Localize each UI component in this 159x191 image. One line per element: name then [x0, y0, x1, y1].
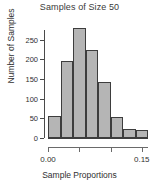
histogram-bar [73, 28, 86, 138]
histogram-bar [61, 61, 74, 138]
x-axis-tick [79, 147, 80, 152]
histogram-bar [86, 50, 99, 138]
histogram-bar [98, 82, 111, 138]
x-axis-tick [48, 147, 49, 152]
y-axis-tick-label: 200 [4, 55, 38, 64]
histogram-chart: Samples of Size 50 Number of Samples 050… [0, 0, 159, 191]
chart-title: Samples of Size 50 [0, 2, 159, 12]
y-axis-tick-label: 100 [4, 95, 38, 104]
y-axis-tick [40, 40, 44, 41]
histogram-bar [123, 129, 136, 138]
plot-area [48, 24, 148, 138]
y-axis-tick-label: 50 [4, 114, 38, 123]
histogram-bar [136, 130, 149, 138]
y-axis-tick-label: 250 [4, 36, 38, 45]
histogram-bar [48, 116, 61, 138]
y-axis-tick [40, 59, 44, 60]
y-axis-tick [40, 99, 44, 100]
x-axis-tick-label: 0.00 [28, 155, 68, 164]
x-axis-bracket [48, 147, 148, 148]
y-axis-line [44, 30, 45, 138]
y-axis-tick-label: 0 [4, 134, 38, 143]
x-axis-line [48, 138, 148, 139]
histogram-bar [111, 117, 124, 138]
x-axis-tick [111, 147, 112, 152]
y-axis-tick-label: 150 [4, 75, 38, 84]
x-axis-title: Sample Proportions [0, 170, 159, 180]
y-axis-tick [40, 79, 44, 80]
y-axis-tick [40, 138, 44, 139]
y-axis-tick [40, 118, 44, 119]
y-axis-title: Number of Samples [6, 0, 16, 101]
x-axis-tick-label: 0.15 [122, 155, 159, 164]
x-axis-tick [142, 147, 143, 152]
